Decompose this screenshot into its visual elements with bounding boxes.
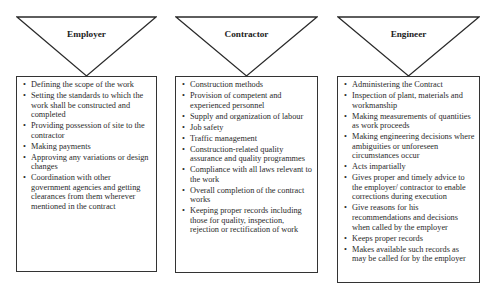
list-item: •Job safety (181, 123, 313, 133)
list-item: •Acts impartially (343, 162, 475, 172)
list-item: •Making payments (22, 142, 152, 152)
employer-triangle-shape (16, 16, 157, 77)
employer-title: Employer (16, 29, 157, 39)
engineer-responsibilities-box: •Administering the Contract •Inspection … (337, 76, 480, 283)
contractor-title: Contractor (175, 29, 318, 39)
list-item: •Makes available such records as may be … (343, 245, 475, 264)
list-item: •Supply and organization of labour (181, 112, 313, 122)
bullet-icon: • (344, 80, 347, 90)
list-item: •Providing possession of site to the con… (22, 121, 152, 140)
bullet-icon: • (23, 80, 26, 90)
bullet-icon: • (344, 112, 347, 122)
list-item: •Defining the scope of the work (22, 80, 152, 90)
employer-responsibilities-list: •Defining the scope of the work •Setting… (22, 80, 152, 212)
list-item: •Administering the Contract (343, 80, 475, 90)
bullet-icon: • (182, 123, 185, 133)
bullet-icon: • (182, 80, 185, 90)
list-item: •Setting the standards to which the work… (22, 91, 152, 120)
bullet-icon: • (182, 91, 185, 101)
list-item: •Construction-related quality assurance … (181, 145, 313, 164)
bullet-icon: • (344, 203, 347, 213)
list-item: •Gives proper and timely advice to the e… (343, 173, 475, 202)
contractor-responsibilities-box: •Construction methods •Provision of comp… (175, 76, 318, 273)
bullet-icon: • (23, 173, 26, 183)
bullet-icon: • (344, 162, 347, 172)
bullet-icon: • (182, 112, 185, 122)
list-item: •Approving any variations or design chan… (22, 153, 152, 172)
contractor-triangle-shape (175, 16, 318, 77)
contractor-responsibilities-list: •Construction methods •Provision of comp… (181, 80, 313, 235)
list-item: •Inspection of plant, materials and work… (343, 91, 475, 110)
bullet-icon: • (182, 165, 185, 175)
bullet-icon: • (182, 134, 185, 144)
list-item: •Keeping proper records including those … (181, 206, 313, 235)
list-item: •Keeps proper records (343, 234, 475, 244)
bullet-icon: • (344, 245, 347, 255)
bullet-icon: • (23, 121, 26, 131)
list-item: •Making engineering decisions where ambi… (343, 132, 475, 161)
employer-responsibilities-box: •Defining the scope of the work •Setting… (16, 76, 157, 272)
bullet-icon: • (344, 132, 347, 142)
bullet-icon: • (344, 91, 347, 101)
list-item: •Making measurements of quantities as wo… (343, 112, 475, 131)
bullet-icon: • (182, 145, 185, 155)
bullet-icon: • (344, 234, 347, 244)
engineer-responsibilities-list: •Administering the Contract •Inspection … (343, 80, 475, 264)
bullet-icon: • (23, 142, 26, 152)
list-item: •Overall completion of the contract work… (181, 186, 313, 205)
list-item: •Traffic management (181, 134, 313, 144)
bullet-icon: • (344, 173, 347, 183)
bullet-icon: • (182, 206, 185, 216)
engineer-triangle-shape (337, 16, 480, 77)
list-item: •Coordination with other government agen… (22, 173, 152, 211)
bullet-icon: • (182, 186, 185, 196)
engineer-title: Engineer (337, 29, 480, 39)
bullet-icon: • (23, 91, 26, 101)
list-item: •Provision of competent and experienced … (181, 91, 313, 110)
list-item: •Compliance with all laws relevant to th… (181, 165, 313, 184)
list-item: •Construction methods (181, 80, 313, 90)
bullet-icon: • (23, 153, 26, 163)
list-item: •Give reasons for his recommendations an… (343, 203, 475, 232)
